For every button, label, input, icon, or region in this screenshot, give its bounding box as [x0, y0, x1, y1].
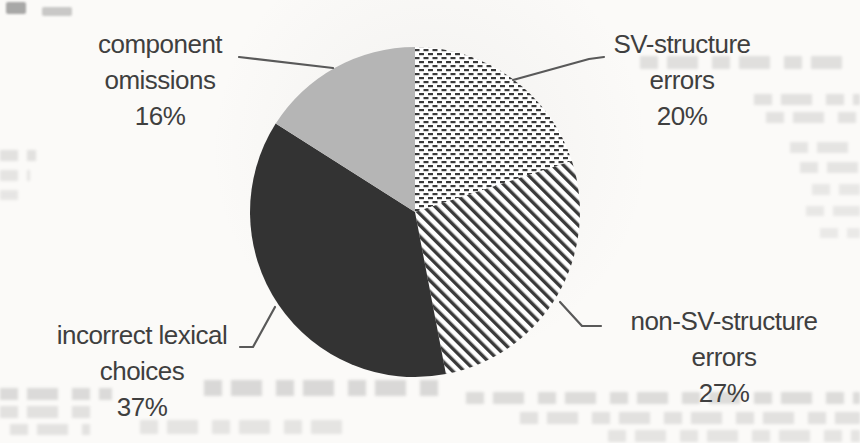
leader-line-non-sv-structure-errors [560, 302, 601, 326]
slice-label-sv-structure-errors: SV-structure errors 20% [564, 26, 800, 134]
slice-label-non-sv-structure-errors: non-SV-structure errors 27% [596, 303, 852, 411]
scanned-page: SV-structure errors 20% non-SV-structure… [0, 0, 860, 443]
slice-label-incorrect-lexical-choices: incorrect lexical choices 37% [24, 317, 260, 425]
slice-label-component-omissions: component omissions 16% [42, 26, 278, 134]
pie-slices [250, 47, 580, 377]
